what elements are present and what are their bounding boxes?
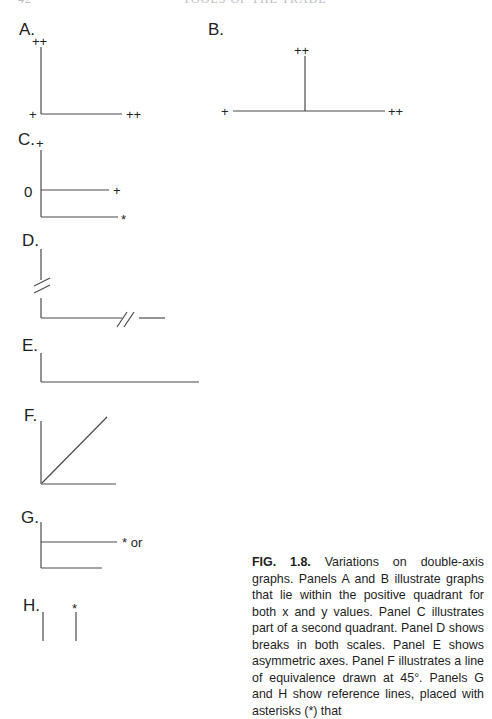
panel-h: H. * bbox=[23, 596, 77, 641]
panel-a-origin: + bbox=[29, 107, 37, 122]
panel-a: A. ++ + ++ bbox=[19, 20, 141, 122]
panel-h-label: H. bbox=[23, 596, 40, 615]
panel-f: F. bbox=[24, 406, 116, 484]
panel-b-x-left: + bbox=[221, 104, 229, 119]
panel-g-asterisk-or: * or bbox=[122, 535, 143, 550]
panel-c-label: C. bbox=[18, 130, 35, 149]
panel-d-y-break-1 bbox=[34, 278, 50, 286]
panel-g-label: G. bbox=[21, 508, 39, 527]
panel-a-x-right: ++ bbox=[126, 107, 141, 122]
panel-g: G. * or bbox=[21, 508, 143, 568]
panel-b-y-top: ++ bbox=[294, 43, 309, 58]
panel-c-zero-end: + bbox=[113, 183, 121, 198]
figure-caption: FIG. 1.8. Variations on double-axis grap… bbox=[252, 554, 484, 719]
caption-text: Variations on double-axis graphs. Panels… bbox=[252, 555, 484, 718]
figure-number: FIG. 1.8. bbox=[252, 555, 311, 569]
panel-d-label: D. bbox=[22, 231, 39, 250]
panel-e-label: E. bbox=[22, 336, 38, 355]
panel-b: B. ++ + ++ bbox=[208, 20, 403, 119]
panel-c: C. + 0 + * bbox=[18, 130, 126, 227]
panel-a-y-top: ++ bbox=[32, 34, 47, 49]
panel-c-y-top: + bbox=[36, 136, 44, 151]
panel-b-x-right: ++ bbox=[388, 104, 403, 119]
panel-c-zero: 0 bbox=[24, 183, 32, 200]
panel-e: E. bbox=[22, 336, 199, 382]
panel-f-equivalence-line bbox=[42, 417, 107, 483]
panel-b-label: B. bbox=[208, 20, 224, 39]
panel-d-y-break-2 bbox=[34, 285, 50, 293]
panel-f-label: F. bbox=[24, 406, 37, 425]
panel-d: D. bbox=[22, 231, 165, 327]
panel-c-asterisk: * bbox=[121, 212, 126, 227]
